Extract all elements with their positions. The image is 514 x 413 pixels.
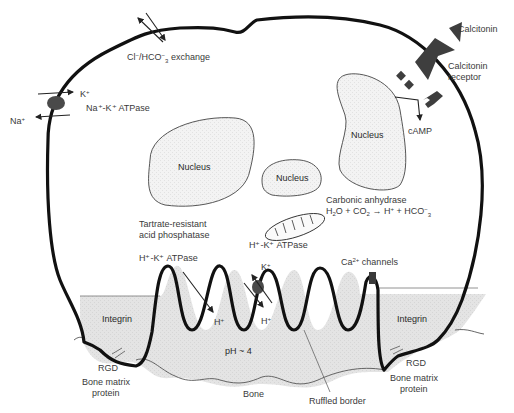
trap-label-2: acid phosphatase bbox=[139, 230, 210, 240]
bone-matrix-label-right-1: Bone matrix bbox=[390, 373, 439, 383]
na-plus-label: Na+ bbox=[10, 116, 26, 126]
ph-label: pH ~ 4 bbox=[225, 346, 252, 356]
h-k-pump-icon bbox=[252, 280, 264, 294]
na-out-arrow bbox=[36, 115, 70, 117]
ruffled-border-label: Ruffled border bbox=[309, 396, 366, 406]
receptor-fragment-2 bbox=[404, 80, 414, 90]
rgd-label-right: RGD bbox=[406, 358, 427, 368]
bone-label: Bone bbox=[243, 389, 264, 399]
h-k-atpase-label-left: H⁺-K⁺ ATPase bbox=[139, 253, 198, 263]
osteoclast-diagram: Cl−/HCO−3 exchange K+ Na+ Na⁺-K⁺ ATPase … bbox=[0, 0, 514, 413]
exchange-arrow-in bbox=[146, 13, 165, 40]
rgd-label-left: RGD bbox=[98, 363, 119, 373]
receptor-fragment-1 bbox=[396, 71, 406, 81]
na-k-atpase-pump-icon bbox=[47, 96, 65, 110]
bone-matrix-label-left-2: protein bbox=[92, 388, 120, 398]
camp-label: cAMP bbox=[408, 126, 432, 136]
calcitonin-label: Calcitonin bbox=[458, 24, 498, 34]
h-k-atpase-label-mito: H⁺-K⁺ ATPase bbox=[249, 240, 308, 250]
trap-label-1: Tartrate-resistant bbox=[139, 219, 207, 229]
nucleus-label-middle: Nucleus bbox=[276, 173, 309, 183]
calcitonin-receptor-label-2: receptor bbox=[448, 72, 481, 82]
reaction-label: H2O + CO2 → H+ + HCO−3 bbox=[326, 206, 432, 218]
ca-channels-label: Ca2+ channels bbox=[341, 257, 398, 267]
g-protein-icon bbox=[423, 91, 443, 108]
bone-matrix-label-right-2: protein bbox=[400, 384, 428, 394]
na-k-atpase-label: Na⁺-K⁺ ATPase bbox=[86, 103, 150, 113]
nucleus-label-left: Nucleus bbox=[178, 162, 211, 172]
cl-hco3-exchange-label: Cl−/HCO−3 exchange bbox=[127, 52, 210, 64]
integrin-label-right: Integrin bbox=[397, 314, 427, 324]
k-in-arrow bbox=[38, 92, 73, 94]
k-plus-label-left: K+ bbox=[80, 89, 90, 99]
carbonic-anhydrase-label: Carbonic anhydrase bbox=[326, 195, 407, 205]
bone-resorption-area bbox=[80, 266, 486, 388]
ca-channel-icon bbox=[369, 272, 376, 284]
bone-matrix-label-left-1: Bone matrix bbox=[82, 377, 131, 387]
nucleus-label-right: Nucleus bbox=[351, 130, 384, 140]
calcitonin-receptor-label-1: Calcitonin bbox=[448, 61, 488, 71]
integrin-label-left: Integrin bbox=[102, 314, 132, 324]
